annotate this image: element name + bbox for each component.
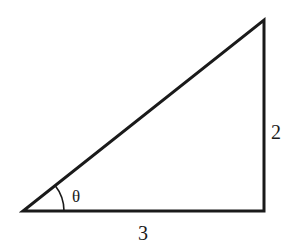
angle-arc xyxy=(55,186,64,211)
triangle xyxy=(23,20,264,211)
opposite-side-label: 2 xyxy=(271,121,281,143)
angle-label: θ xyxy=(72,187,80,206)
right-triangle-diagram: θ 3 2 xyxy=(0,0,290,252)
adjacent-side-label: 3 xyxy=(138,222,148,244)
